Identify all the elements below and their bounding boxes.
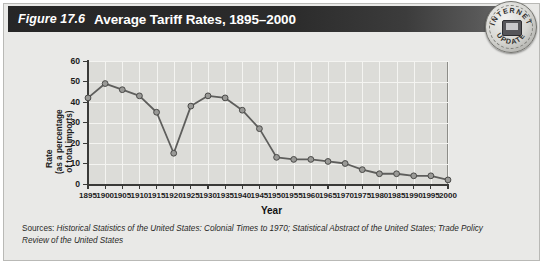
data-point-marker	[291, 157, 297, 163]
data-point-marker	[257, 126, 263, 132]
figure-title-bar: Figure 17.6 Average Tariff Rates, 1895–2…	[8, 6, 518, 32]
data-point-marker	[308, 157, 314, 163]
sources-text: Historical Statistics of the United Stat…	[22, 224, 483, 245]
data-point-marker	[274, 154, 280, 160]
data-point-marker	[171, 150, 177, 156]
data-point-marker	[359, 167, 365, 173]
data-point-marker	[205, 93, 211, 99]
data-point-marker	[445, 177, 451, 183]
data-point-marker	[394, 171, 400, 177]
data-point-marker	[325, 159, 331, 165]
page-title: Average Tariff Rates, 1895–2000	[94, 12, 296, 27]
x-axis-title: Year	[0, 205, 543, 216]
data-point-marker	[85, 95, 91, 101]
data-point-marker	[119, 87, 125, 93]
data-point-marker	[154, 109, 160, 115]
data-point-marker	[411, 173, 417, 179]
sources-note: Sources: Historical Statistics of the Un…	[22, 223, 502, 246]
data-point-marker	[188, 103, 194, 109]
internet-update-badge[interactable]: INTERNET UPDATE	[485, 1, 537, 53]
data-point-marker	[137, 93, 143, 99]
computer-monitor-icon	[502, 20, 522, 36]
data-point-marker	[102, 81, 108, 87]
data-point-marker	[222, 95, 228, 101]
figure-number: Figure 17.6	[18, 12, 85, 26]
data-point-marker	[428, 173, 434, 179]
data-point-marker	[342, 161, 348, 167]
sources-label: Sources:	[22, 224, 57, 233]
figure-container: Figure 17.6 Average Tariff Rates, 1895–2…	[0, 0, 543, 268]
data-point-marker	[239, 107, 245, 113]
data-point-marker	[377, 171, 383, 177]
